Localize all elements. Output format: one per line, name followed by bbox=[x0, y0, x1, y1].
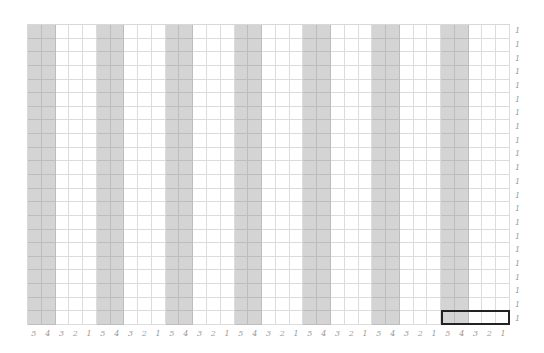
grid-cell[interactable] bbox=[303, 257, 317, 271]
grid-cell[interactable] bbox=[56, 52, 70, 66]
grid-cell[interactable] bbox=[482, 216, 496, 230]
grid-cell[interactable] bbox=[276, 270, 290, 284]
grid-cell[interactable] bbox=[345, 270, 359, 284]
grid-cell[interactable] bbox=[262, 175, 276, 189]
grid-cell[interactable] bbox=[235, 148, 249, 162]
grid-cell[interactable] bbox=[235, 93, 249, 107]
grid-cell[interactable] bbox=[28, 270, 42, 284]
grid-cell[interactable] bbox=[111, 243, 125, 257]
grid-cell[interactable] bbox=[469, 270, 483, 284]
grid-cell[interactable] bbox=[262, 202, 276, 216]
grid-cell[interactable] bbox=[179, 311, 193, 325]
grid-cell[interactable] bbox=[482, 243, 496, 257]
grid-cell[interactable] bbox=[221, 216, 235, 230]
grid-cell[interactable] bbox=[193, 134, 207, 148]
grid-cell[interactable] bbox=[97, 311, 111, 325]
grid-cell[interactable] bbox=[235, 230, 249, 244]
grid-cell[interactable] bbox=[69, 202, 83, 216]
grid-cell[interactable] bbox=[221, 134, 235, 148]
grid-cell[interactable] bbox=[56, 80, 70, 94]
grid-cell[interactable] bbox=[179, 216, 193, 230]
grid-cell[interactable] bbox=[290, 189, 304, 203]
grid-cell[interactable] bbox=[83, 25, 97, 39]
grid-cell[interactable] bbox=[372, 161, 386, 175]
grid-cell[interactable] bbox=[345, 284, 359, 298]
grid-cell[interactable] bbox=[427, 148, 441, 162]
grid-cell[interactable] bbox=[193, 107, 207, 121]
grid-cell[interactable] bbox=[303, 284, 317, 298]
grid-cell[interactable] bbox=[138, 25, 152, 39]
grid-cell[interactable] bbox=[290, 107, 304, 121]
grid-cell[interactable] bbox=[69, 93, 83, 107]
grid-cell[interactable] bbox=[111, 39, 125, 53]
grid-cell[interactable] bbox=[207, 257, 221, 271]
grid-cell[interactable] bbox=[83, 230, 97, 244]
grid-cell[interactable] bbox=[166, 257, 180, 271]
grid-cell[interactable] bbox=[317, 107, 331, 121]
grid-cell[interactable] bbox=[221, 175, 235, 189]
grid-cell[interactable] bbox=[372, 175, 386, 189]
grid-cell[interactable] bbox=[262, 257, 276, 271]
grid-cell[interactable] bbox=[372, 189, 386, 203]
grid-cell[interactable] bbox=[56, 311, 70, 325]
grid-cell[interactable] bbox=[482, 189, 496, 203]
grid-cell[interactable] bbox=[152, 202, 166, 216]
grid-cell[interactable] bbox=[221, 39, 235, 53]
grid-cell[interactable] bbox=[207, 230, 221, 244]
grid-cell[interactable] bbox=[496, 161, 510, 175]
grid-cell[interactable] bbox=[152, 243, 166, 257]
grid-cell[interactable] bbox=[28, 257, 42, 271]
grid-cell[interactable] bbox=[331, 93, 345, 107]
grid-cell[interactable] bbox=[455, 243, 469, 257]
grid-cell[interactable] bbox=[386, 120, 400, 134]
grid-cell[interactable] bbox=[400, 270, 414, 284]
grid-cell[interactable] bbox=[235, 39, 249, 53]
grid-cell[interactable] bbox=[28, 243, 42, 257]
grid-cell[interactable] bbox=[28, 298, 42, 312]
grid-cell[interactable] bbox=[124, 52, 138, 66]
grid-cell[interactable] bbox=[331, 257, 345, 271]
grid-cell[interactable] bbox=[290, 216, 304, 230]
grid-cell[interactable] bbox=[221, 284, 235, 298]
grid-cell[interactable] bbox=[166, 216, 180, 230]
grid-cell[interactable] bbox=[262, 298, 276, 312]
grid-cell[interactable] bbox=[193, 311, 207, 325]
grid-cell[interactable] bbox=[28, 189, 42, 203]
grid-cell[interactable] bbox=[56, 257, 70, 271]
grid-cell[interactable] bbox=[42, 216, 56, 230]
grid-cell[interactable] bbox=[28, 148, 42, 162]
grid-cell[interactable] bbox=[166, 202, 180, 216]
grid-cell[interactable] bbox=[262, 243, 276, 257]
grid-cell[interactable] bbox=[317, 161, 331, 175]
grid-cell[interactable] bbox=[290, 202, 304, 216]
grid-cell[interactable] bbox=[276, 175, 290, 189]
grid-cell[interactable] bbox=[455, 230, 469, 244]
grid-cell[interactable] bbox=[262, 66, 276, 80]
grid-cell[interactable] bbox=[235, 52, 249, 66]
grid-cell[interactable] bbox=[317, 230, 331, 244]
grid-cell[interactable] bbox=[372, 134, 386, 148]
grid-cell[interactable] bbox=[414, 161, 428, 175]
grid-cell[interactable] bbox=[152, 66, 166, 80]
grid-cell[interactable] bbox=[290, 161, 304, 175]
grid-cell[interactable] bbox=[69, 298, 83, 312]
grid-cell[interactable] bbox=[359, 230, 373, 244]
grid-cell[interactable] bbox=[193, 80, 207, 94]
grid-cell[interactable] bbox=[179, 107, 193, 121]
grid-cell[interactable] bbox=[69, 230, 83, 244]
grid-cell[interactable] bbox=[400, 39, 414, 53]
grid-cell[interactable] bbox=[28, 202, 42, 216]
grid-cell[interactable] bbox=[193, 270, 207, 284]
grid-cell[interactable] bbox=[290, 257, 304, 271]
grid-cell[interactable] bbox=[496, 284, 510, 298]
grid-cell[interactable] bbox=[276, 230, 290, 244]
grid-cell[interactable] bbox=[179, 284, 193, 298]
grid-cell[interactable] bbox=[414, 93, 428, 107]
grid-cell[interactable] bbox=[166, 134, 180, 148]
grid-cell[interactable] bbox=[359, 216, 373, 230]
grid-cell[interactable] bbox=[317, 189, 331, 203]
grid-cell[interactable] bbox=[400, 120, 414, 134]
grid-cell[interactable] bbox=[386, 216, 400, 230]
grid-cell[interactable] bbox=[441, 39, 455, 53]
grid-cell[interactable] bbox=[166, 175, 180, 189]
